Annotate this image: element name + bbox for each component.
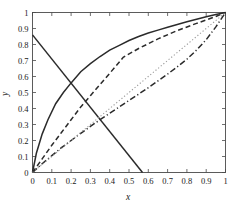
x-tick-label: 0.8 (182, 176, 193, 186)
x-tick-label: 0.6 (143, 176, 154, 186)
y-axis-tick-labels: 00.10.20.30.40.50.60.70.80.91 (18, 8, 29, 178)
chart-canvas: 00.10.20.30.40.50.60.70.80.91 00.10.20.3… (0, 0, 234, 204)
y-tick-label: 0.1 (18, 152, 29, 162)
y-tick-label: 0.9 (18, 24, 29, 34)
x-tick-label: 0.7 (162, 176, 173, 186)
y-tick-label: 0 (24, 168, 28, 178)
series-dotted-diagonal (33, 13, 226, 173)
x-tick-label: 0.1 (46, 176, 57, 186)
x-axis-title: x (125, 192, 131, 202)
y-tick-label: 0.3 (18, 120, 29, 130)
x-tick-label: 0.2 (66, 176, 77, 186)
y-axis-title: y (0, 91, 10, 97)
y-tick-label: 0.7 (18, 56, 29, 66)
y-tick-label: 0.5 (18, 88, 29, 98)
x-tick-label: 0 (30, 176, 34, 186)
series-descending-line (33, 35, 143, 173)
figure-container: 00.10.20.30.40.50.60.70.80.91 00.10.20.3… (0, 0, 234, 204)
x-axis-tick-labels: 00.10.20.30.40.50.60.70.80.91 (30, 176, 227, 186)
y-tick-label: 0.4 (18, 104, 29, 114)
x-tick-label: 0.4 (104, 176, 115, 186)
y-tick-label: 0.8 (18, 40, 29, 50)
x-tick-label: 0.3 (85, 176, 96, 186)
x-tick-label: 0.5 (124, 176, 135, 186)
y-tick-label: 0.6 (18, 72, 29, 82)
y-tick-label: 0.2 (18, 136, 29, 146)
x-tick-label: 0.9 (201, 176, 212, 186)
data-series-group (33, 13, 226, 173)
y-tick-label: 1 (24, 8, 28, 18)
x-tick-label: 1 (223, 176, 227, 186)
